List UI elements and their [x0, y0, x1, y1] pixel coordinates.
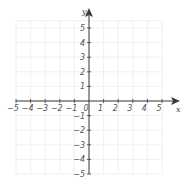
y-tick-label: 3: [80, 53, 85, 62]
x-tick-label: −4: [22, 104, 34, 113]
coordinate-plane: x y −5−4−3−2−1012345−5−4−3−2−112345: [0, 0, 187, 187]
y-tick-label: 5: [80, 24, 85, 33]
x-tick-label: 4: [142, 104, 147, 113]
x-tick-label: −3: [36, 104, 48, 113]
x-tick-label: −5: [7, 104, 19, 113]
x-axis-label: x: [176, 105, 181, 114]
y-tick-label: −4: [73, 155, 85, 164]
y-tick-label: 4: [80, 39, 85, 48]
y-axis-label: y: [81, 7, 87, 16]
axes: x y: [16, 7, 181, 174]
y-tick-label: 1: [80, 82, 85, 91]
y-tick-label: −1: [73, 112, 85, 121]
x-tick-label: 1: [98, 104, 103, 113]
y-tick-label: −5: [73, 170, 85, 179]
y-tick-label: −2: [73, 126, 85, 135]
x-tick-label: −2: [51, 104, 63, 113]
x-tick-label: 2: [113, 104, 118, 113]
y-tick-label: 2: [80, 68, 85, 77]
x-tick-label: 3: [127, 104, 132, 113]
x-tick-label: 5: [156, 104, 161, 113]
y-tick-label: −3: [73, 141, 85, 150]
